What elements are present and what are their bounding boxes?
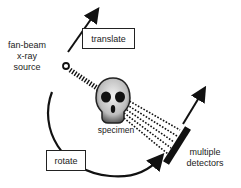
source-ring-icon: [63, 63, 69, 69]
skull-icon: [96, 78, 130, 123]
incident-beam: [70, 70, 100, 90]
detectors-label-line2: detectors: [180, 158, 230, 169]
source-label-line1: fan-beam: [2, 40, 52, 51]
detectors-label-line1: multiple: [180, 147, 230, 158]
translate-arrow-detector: [183, 91, 203, 124]
detectors-label: multiple detectors: [180, 147, 230, 169]
translate-box: translate: [82, 28, 135, 49]
rotate-box: rotate: [46, 150, 86, 171]
source-label-line2: x-ray: [2, 51, 52, 62]
source-label: fan-beam x-ray source: [2, 40, 52, 73]
source-label-line3: source: [2, 62, 52, 73]
specimen-label: specimen: [94, 125, 138, 136]
